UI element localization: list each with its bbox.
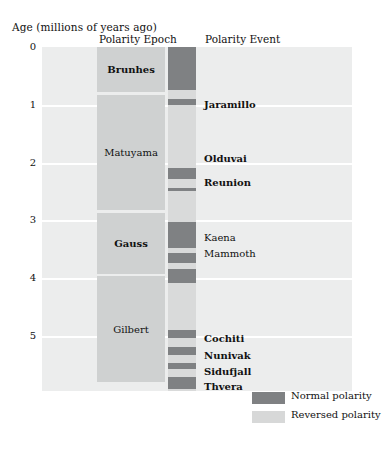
event-label-kaena: Kaena <box>204 232 236 243</box>
polarity-band-normal <box>168 347 196 355</box>
gridline <box>42 220 352 222</box>
event-label-cochiti: Cochiti <box>204 333 244 344</box>
polarity-band-normal <box>168 330 196 338</box>
epoch-label: Gilbert <box>113 324 149 335</box>
epoch-block-brunhes: Brunhes <box>97 47 165 92</box>
gridline <box>42 336 352 338</box>
polarity-band-normal <box>168 363 196 369</box>
event-label-thvera: Thvera <box>204 381 243 392</box>
event-label-nunivak: Nunivak <box>204 350 251 361</box>
polarity-band-normal <box>168 99 196 105</box>
y-axis-tick-label: 5 <box>0 330 36 341</box>
legend-swatch-normal <box>252 392 285 404</box>
epoch-block-gilbert: Gilbert <box>97 276 165 382</box>
column-header-polarity-event: Polarity Event <box>205 33 280 45</box>
event-label-sidufjall: Sidufjall <box>204 366 251 377</box>
y-axis-tick-label: 2 <box>0 157 36 168</box>
gridline <box>42 278 352 280</box>
polarity-event-column <box>168 47 196 391</box>
event-label-olduvai: Olduvai <box>204 153 247 164</box>
polarity-band-normal <box>168 253 196 263</box>
polarity-band-normal <box>168 47 196 90</box>
y-axis-tick-label: 1 <box>0 99 36 110</box>
gridline <box>42 105 352 107</box>
polarity-epoch-column: BrunhesMatuyamaGaussGilbert <box>97 47 165 391</box>
epoch-block-matuyama: Matuyama <box>97 95 165 210</box>
chart-panel <box>42 47 352 391</box>
y-axis-tick-label: 4 <box>0 272 36 283</box>
legend-swatch-reversed <box>252 411 285 423</box>
legend-label: Reversed polarity <box>291 409 381 420</box>
event-label-jaramillo: Jaramillo <box>204 99 256 110</box>
y-axis-tick-label: 0 <box>0 41 36 52</box>
legend-label: Normal polarity <box>291 390 372 401</box>
epoch-label: Matuyama <box>104 147 158 158</box>
polarity-band-normal <box>168 269 196 283</box>
y-axis-tick-label: 3 <box>0 214 36 225</box>
polarity-timescale-figure: Age (millions of years ago) Polarity Epo… <box>0 0 386 464</box>
event-label-mammoth: Mammoth <box>204 248 256 259</box>
polarity-band-normal <box>168 188 196 191</box>
event-label-reunion: Reunion <box>204 177 251 188</box>
polarity-band-normal <box>168 377 196 389</box>
polarity-band-normal <box>168 222 196 248</box>
polarity-band-normal <box>168 168 196 179</box>
epoch-label: Gauss <box>114 238 148 249</box>
gridline <box>42 163 352 165</box>
column-header-polarity-epoch: Polarity Epoch <box>99 33 177 45</box>
epoch-label: Brunhes <box>107 64 155 75</box>
axis-title: Age (millions of years ago) <box>12 21 157 33</box>
epoch-block-gauss: Gauss <box>97 213 165 274</box>
